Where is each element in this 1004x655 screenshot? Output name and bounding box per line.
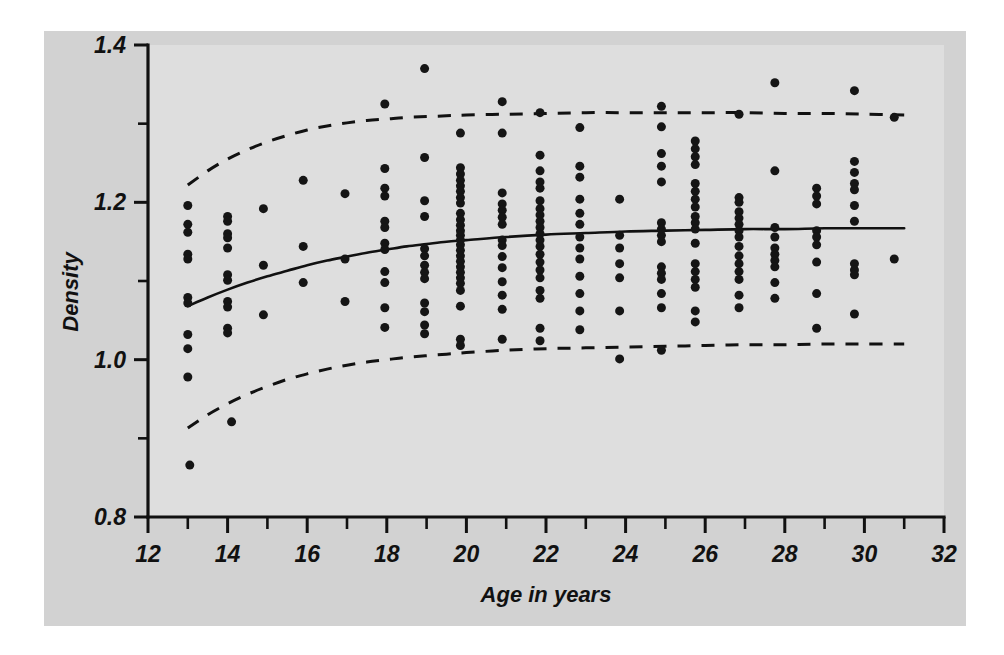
data-point — [183, 344, 192, 353]
data-point — [380, 164, 389, 173]
x-tick-label: 20 — [453, 541, 480, 567]
data-point — [890, 254, 899, 263]
x-axis-tick-labels: 1214161820222426283032 — [135, 541, 957, 567]
data-point — [691, 317, 700, 326]
data-point — [770, 78, 779, 87]
data-point — [735, 259, 744, 268]
data-point — [770, 166, 779, 175]
data-point — [223, 276, 232, 285]
data-point — [615, 273, 624, 282]
y-tick-label: 0.8 — [94, 504, 126, 530]
curve-lower-reference-band — [188, 344, 904, 428]
data-point — [657, 162, 666, 171]
data-point — [575, 243, 584, 252]
data-point — [735, 251, 744, 260]
data-point — [498, 291, 507, 300]
data-point — [380, 245, 389, 254]
data-point — [735, 303, 744, 312]
y-axis-tick-labels: 1.41.21.00.8 — [94, 32, 126, 530]
data-point — [420, 274, 429, 283]
data-point — [536, 273, 545, 282]
data-point — [615, 354, 624, 363]
data-point — [380, 267, 389, 276]
data-point — [299, 176, 308, 185]
data-points — [183, 64, 898, 469]
data-point — [259, 261, 268, 270]
data-point — [575, 289, 584, 298]
data-point — [735, 275, 744, 284]
data-point — [657, 275, 666, 284]
data-point — [223, 328, 232, 337]
x-tick-label: 32 — [931, 541, 957, 567]
data-point — [770, 223, 779, 232]
data-point — [259, 310, 268, 319]
data-point — [536, 250, 545, 259]
data-point — [575, 232, 584, 241]
data-point — [341, 297, 350, 306]
data-point — [812, 324, 821, 333]
data-point — [498, 220, 507, 229]
data-point — [691, 160, 700, 169]
data-point — [812, 258, 821, 267]
data-point — [183, 372, 192, 381]
data-point — [380, 278, 389, 287]
data-point — [456, 199, 465, 208]
data-point — [770, 294, 779, 303]
data-point — [498, 129, 507, 138]
data-point — [575, 272, 584, 281]
data-point — [657, 149, 666, 158]
data-point — [536, 336, 545, 345]
x-axis-ticks — [148, 517, 944, 533]
data-point — [536, 294, 545, 303]
data-point — [850, 86, 859, 95]
data-point — [735, 267, 744, 276]
series-curves — [188, 113, 904, 429]
data-point — [420, 329, 429, 338]
data-point — [498, 263, 507, 272]
data-point — [850, 168, 859, 177]
data-point — [575, 325, 584, 334]
data-point — [223, 243, 232, 252]
data-point — [735, 110, 744, 119]
data-point — [890, 113, 899, 122]
data-point — [735, 291, 744, 300]
x-tick-label: 14 — [215, 541, 241, 567]
data-point — [536, 242, 545, 251]
data-point — [735, 232, 744, 241]
data-point — [299, 278, 308, 287]
data-point — [691, 187, 700, 196]
y-axis-title: Density — [58, 251, 83, 332]
data-point — [536, 151, 545, 160]
data-point — [575, 306, 584, 315]
data-point — [850, 270, 859, 279]
axis-lines — [148, 45, 944, 517]
data-point — [575, 173, 584, 182]
x-tick-label: 24 — [612, 541, 639, 567]
data-point — [420, 212, 429, 221]
data-point — [691, 152, 700, 161]
curve-fitted-median — [188, 228, 904, 306]
x-axis-title: Age in years — [480, 582, 612, 607]
data-point — [341, 189, 350, 198]
data-point — [615, 259, 624, 268]
data-point — [380, 223, 389, 232]
data-point — [380, 184, 389, 193]
data-point — [456, 286, 465, 295]
data-point — [735, 242, 744, 251]
data-point — [812, 192, 821, 201]
curve-upper-reference-band — [188, 113, 904, 185]
data-point — [691, 203, 700, 212]
data-point — [223, 233, 232, 242]
data-point — [341, 254, 350, 263]
data-point — [657, 177, 666, 186]
data-point — [691, 306, 700, 315]
x-tick-label: 22 — [532, 541, 559, 567]
data-point — [657, 122, 666, 131]
data-point — [456, 129, 465, 138]
data-point — [183, 220, 192, 229]
data-point — [223, 302, 232, 311]
data-point — [536, 196, 545, 205]
y-tick-label: 1.2 — [94, 189, 126, 215]
x-tick-label: 28 — [771, 541, 798, 567]
data-point — [691, 283, 700, 292]
